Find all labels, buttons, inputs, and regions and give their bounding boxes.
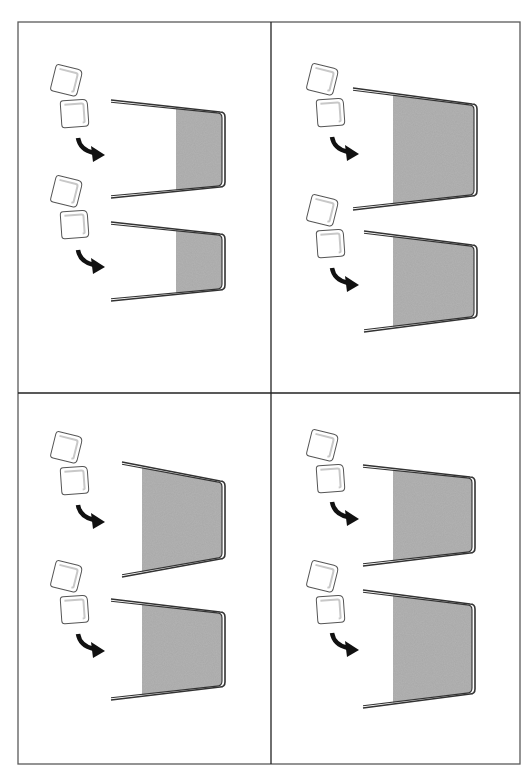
glass xyxy=(111,599,225,700)
ice-cube-pair xyxy=(306,63,345,127)
ice-cube-icon xyxy=(60,99,89,128)
ice-cube-icon xyxy=(306,560,339,593)
glass xyxy=(363,590,475,708)
ice-cube-icon xyxy=(316,595,345,624)
ice-cube-icon xyxy=(316,464,345,493)
curved-arrow-icon xyxy=(78,634,105,658)
ice-cube-icon xyxy=(306,429,339,462)
ice-cube-icon xyxy=(50,560,83,593)
curved-arrow-icon xyxy=(332,268,359,292)
water-fill xyxy=(393,95,474,204)
panel-top-right xyxy=(306,63,477,332)
ice-cube-icon xyxy=(50,175,83,208)
water-fill xyxy=(176,108,222,190)
curved-arrow-icon xyxy=(78,138,105,162)
curved-arrow-icon xyxy=(332,633,359,657)
ice-cube-pair xyxy=(50,64,89,128)
ice-cube-pair xyxy=(306,429,345,493)
panel-bottom-left xyxy=(50,431,225,700)
water-fill xyxy=(176,230,222,293)
glass xyxy=(353,88,477,210)
water-fill xyxy=(393,470,472,561)
water-fill xyxy=(393,236,474,327)
glass xyxy=(364,231,477,332)
ice-cube-pair xyxy=(50,175,89,239)
curved-arrow-icon xyxy=(78,250,105,274)
ice-cube-icon xyxy=(60,466,89,495)
ice-cube-icon xyxy=(50,431,83,464)
panel-bottom-right xyxy=(306,429,475,708)
diagram-canvas xyxy=(0,0,531,777)
curved-arrow-icon xyxy=(78,505,105,529)
ice-cube-icon xyxy=(306,194,339,227)
curved-arrow-icon xyxy=(332,137,359,161)
glass xyxy=(122,462,225,577)
ice-cube-pair xyxy=(306,560,345,624)
ice-cube-icon xyxy=(60,210,89,239)
glass xyxy=(111,100,225,198)
glass xyxy=(363,465,475,566)
water-fill xyxy=(142,467,222,572)
ice-cube-pair xyxy=(50,560,89,624)
ice-cube-icon xyxy=(60,595,89,624)
panel-top-left xyxy=(50,64,225,301)
ice-cube-icon xyxy=(316,98,345,127)
ice-cube-pair xyxy=(306,194,345,258)
ice-cube-icon xyxy=(50,64,83,97)
water-fill xyxy=(142,604,222,695)
ice-cube-icon xyxy=(316,229,345,258)
curved-arrow-icon xyxy=(332,502,359,526)
glass xyxy=(111,222,225,301)
panels xyxy=(50,63,477,708)
water-fill xyxy=(393,595,472,703)
ice-cube-pair xyxy=(50,431,89,495)
ice-cube-icon xyxy=(306,63,339,96)
ice-glass-diagram xyxy=(0,0,531,777)
